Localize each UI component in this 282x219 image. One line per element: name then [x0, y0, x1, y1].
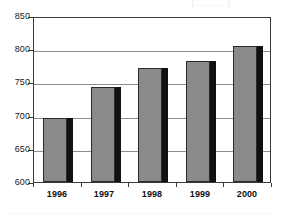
x-axis-label-2000: 2000 [225, 189, 269, 199]
x-tick [271, 183, 272, 187]
bar-1999 [186, 61, 216, 182]
x-tick [128, 183, 129, 187]
bar-body [138, 68, 162, 182]
bar-2000 [233, 46, 263, 182]
bar-1998 [138, 68, 168, 182]
x-tick [223, 183, 224, 187]
plot-area [33, 17, 271, 183]
x-axis-label-1998: 1998 [130, 189, 174, 199]
y-axis-label: 750 [2, 78, 30, 87]
x-tick [33, 183, 34, 187]
bar-shadow [161, 68, 168, 182]
bar-body [43, 118, 67, 182]
x-axis-label-1996: 1996 [35, 189, 79, 199]
page-scan-artifact [8, 212, 274, 215]
bar-body [91, 87, 115, 182]
bar-shadow [66, 118, 73, 182]
x-tick [176, 183, 177, 187]
y-axis-label: 650 [2, 145, 30, 154]
bar-1997 [91, 87, 121, 182]
bar-1996 [43, 118, 73, 182]
y-axis-label: 850 [2, 12, 30, 21]
y-axis-label: 600 [2, 178, 30, 187]
y-axis-label: 700 [2, 112, 30, 121]
bar-shadow [209, 61, 216, 182]
bar-body [186, 61, 210, 182]
y-axis-label: 800 [2, 45, 30, 54]
x-axis-label-1999: 1999 [178, 189, 222, 199]
chart-title-remnant: (............) [150, 0, 272, 8]
bar-shadow [114, 87, 121, 182]
bar-body [233, 46, 257, 182]
x-tick [81, 183, 82, 187]
bar-shadow [256, 46, 263, 182]
x-axis-label-1997: 1997 [82, 189, 126, 199]
bar-chart-figure: (............) 600650700750800850 199619… [0, 0, 282, 219]
